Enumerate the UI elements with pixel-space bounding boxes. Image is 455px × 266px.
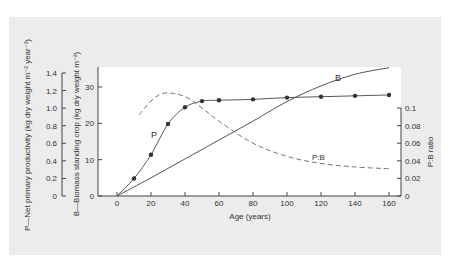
p-axis-tick-label: 0.2: [46, 174, 58, 183]
p-axis-tick-label: 1.4: [46, 69, 58, 78]
x-axis-tick-label: 0: [115, 199, 120, 208]
x-axis-tick-label: 140: [348, 199, 362, 208]
p-axis-label: P—Net primary productivity (kg dry weigh…: [23, 39, 32, 231]
x-axis-label: Age (years): [229, 212, 271, 221]
x-axis-tick-label: 80: [249, 199, 258, 208]
x-axis-tick-label: 40: [181, 199, 190, 208]
data-point-marker: [217, 98, 221, 102]
p-axis-tick-label: 0: [53, 192, 58, 201]
data-point-marker: [132, 176, 136, 180]
p-axis-tick-label: 0.6: [46, 139, 58, 148]
x-axis-tick-label: 160: [382, 199, 396, 208]
plot-area: [98, 67, 401, 196]
ratio-axis-tick-label: 0.08: [405, 122, 421, 131]
x-axis-tick-label: 120: [314, 199, 328, 208]
p-axis-tick-label: 0.8: [46, 122, 58, 131]
x-axis-tick-label: 60: [215, 199, 224, 208]
data-point-marker: [251, 97, 255, 101]
b-axis-tick-label: 0: [90, 192, 95, 201]
ratio-axis-tick-label: 0.04: [405, 157, 421, 166]
b-axis-tick-label: 20: [85, 119, 94, 128]
data-point-marker: [285, 95, 289, 99]
data-point-marker: [149, 153, 153, 157]
x-axis-tick-label: 20: [147, 199, 156, 208]
data-point-marker: [166, 122, 170, 126]
ratio-axis-tick-label: 0: [405, 192, 410, 201]
data-point-marker: [387, 93, 391, 97]
b-axis-tick-label: 30: [85, 83, 94, 92]
p-axis-tick-label: 1.0: [46, 104, 58, 113]
data-point-marker: [353, 94, 357, 98]
ratio-axis-tick-label: 0.02: [405, 174, 421, 183]
data-point-marker: [319, 95, 323, 99]
b-axis-label: B—Biomass standing crop (kg dry weight m…: [72, 51, 81, 216]
p-axis-tick-label: 1.2: [46, 87, 58, 96]
b-axis-tick-label: 10: [85, 156, 94, 165]
curve-label-pb: P:B: [312, 153, 325, 162]
data-point-marker: [200, 99, 204, 103]
chart: 00.20.40.60.81.01.21.4010203002040608010…: [0, 0, 455, 266]
ratio-axis-tick-label: 0.06: [405, 139, 421, 148]
ratio-axis-label: P:B ratio: [426, 136, 435, 167]
curve-label-p: P: [151, 130, 157, 140]
p-axis-tick-label: 0.4: [46, 157, 58, 166]
ratio-axis-tick-label: 0.1: [405, 104, 417, 113]
data-point-marker: [183, 105, 187, 109]
x-axis-tick-label: 100: [280, 199, 294, 208]
curve-label-b: B: [335, 73, 341, 83]
